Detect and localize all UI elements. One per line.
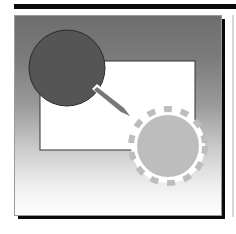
- target-dashed-circle-icon: [131, 109, 205, 183]
- source-circle-icon: [29, 30, 105, 106]
- illustration: [0, 0, 236, 234]
